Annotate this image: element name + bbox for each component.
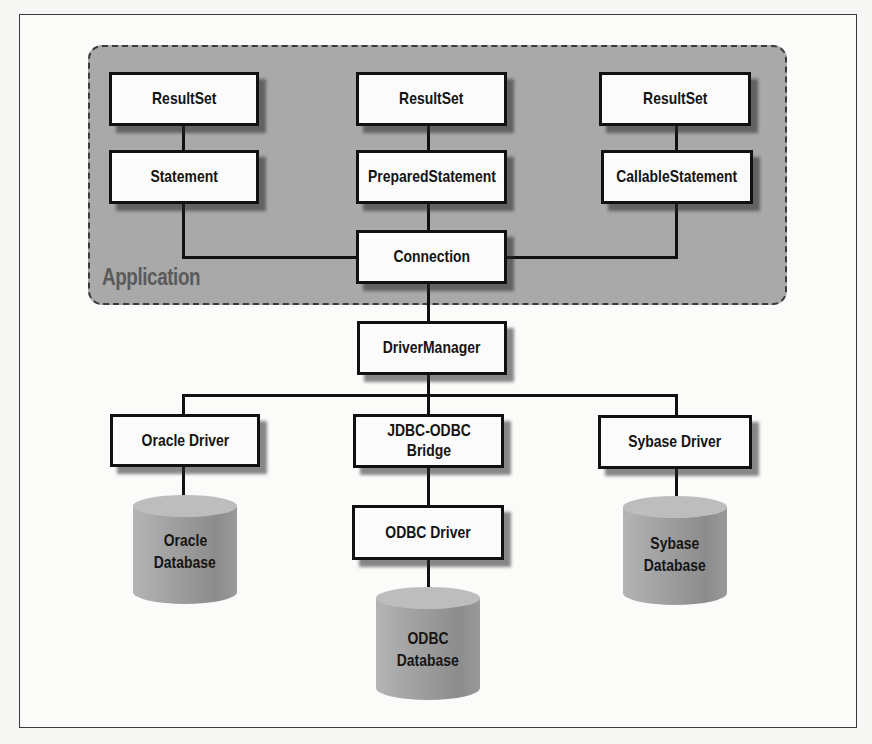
connector-line xyxy=(182,125,185,152)
jdbc-odbc-bridge-node: JDBC-ODBC Bridge xyxy=(353,414,504,468)
connector-line xyxy=(427,203,430,233)
sybase-database-cylinder: Sybase Database xyxy=(622,495,728,607)
connector-line xyxy=(675,394,678,416)
prepared-statement-node: PreparedStatement xyxy=(356,150,507,204)
resultset-node-middle: ResultSet xyxy=(356,72,507,126)
oracle-database-cylinder: Oracle Database xyxy=(132,494,238,606)
oracle-driver-node: Oracle Driver xyxy=(110,414,260,467)
resultset-node-left: ResultSet xyxy=(109,72,259,126)
statement-node: Statement xyxy=(109,150,259,204)
bridge-label-line2: Bridge xyxy=(406,441,450,461)
resultset-node-right: ResultSet xyxy=(599,72,751,126)
connector-line xyxy=(427,125,430,152)
sybase-driver-node: Sybase Driver xyxy=(598,415,752,469)
connector-line xyxy=(182,394,185,416)
connection-node: Connection xyxy=(356,230,507,284)
callable-statement-node: CallableStatement xyxy=(601,150,753,204)
odbc-driver-node: ODBC Driver xyxy=(352,505,504,560)
driver-manager-node: DriverManager xyxy=(357,321,507,375)
odbc-database-cylinder: ODBC Database xyxy=(375,586,481,702)
application-label: Application xyxy=(102,264,200,291)
connector-line xyxy=(675,125,678,152)
connector-line xyxy=(182,203,185,259)
bridge-label-line1: JDBC-ODBC xyxy=(387,421,471,441)
connector-line xyxy=(675,203,678,259)
connector-line xyxy=(182,394,678,397)
connector-line xyxy=(427,467,430,507)
connector-line xyxy=(427,283,430,323)
